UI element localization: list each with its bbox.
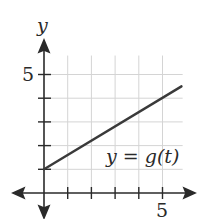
curve-label: y = g(t) xyxy=(105,145,179,167)
grid-lines xyxy=(44,56,183,193)
x-axis-arrow-left-icon xyxy=(13,188,24,198)
x-tick-label-5: 5 xyxy=(156,199,168,219)
y-axis-arrow-down-icon xyxy=(39,206,49,218)
y-axis-arrow-up-icon xyxy=(39,40,49,52)
axes xyxy=(13,40,195,218)
graph: y 5 5 y = g(t) xyxy=(0,0,205,219)
y-tick-label-5: 5 xyxy=(22,63,34,85)
y-axis-label: y xyxy=(36,14,48,36)
x-axis-arrow-right-icon xyxy=(184,188,195,198)
